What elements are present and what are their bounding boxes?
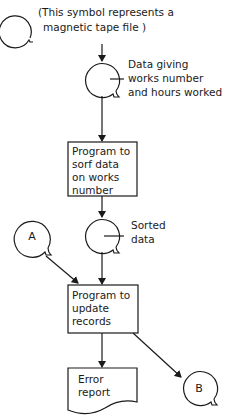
sorted-tape-label-2: data <box>131 233 155 245</box>
input-tape-label-2: works number <box>128 72 204 84</box>
input-tape-label-1: Data giving <box>128 58 188 70</box>
sorted-tape-label-1: Sorted <box>131 219 166 231</box>
tape-icon <box>0 16 33 48</box>
update-program-label-1: Program to <box>72 289 130 301</box>
connector-b-label: B <box>195 382 203 395</box>
sort-program-label-3: on works <box>72 171 119 183</box>
arrow-to-b <box>133 333 181 377</box>
input-tape-symbol <box>86 64 120 98</box>
error-report-label-2: report <box>78 386 110 398</box>
sort-program-label-2: sorf data <box>72 158 119 170</box>
sort-program-label-4: number <box>72 184 114 196</box>
connector-a-label: A <box>28 230 36 243</box>
connector-a: A <box>14 221 51 257</box>
connector-b: B <box>184 372 218 406</box>
update-program-label-2: update <box>72 302 109 314</box>
input-tape-label-3: and hours worked <box>128 86 222 98</box>
legend-line-1: (This symbol represents a <box>38 6 174 18</box>
tape-icon <box>86 64 120 98</box>
legend-line-2: magnetic tape file ) <box>43 21 146 33</box>
sort-program-label-1: Program to <box>72 145 130 157</box>
update-program-label-3: records <box>72 315 111 327</box>
legend-tape-symbol <box>0 16 33 48</box>
error-report-label-1: Error <box>78 373 104 385</box>
arrow-a-to-update <box>46 256 78 283</box>
flowchart: (This symbol represents a magnetic tape … <box>0 0 231 419</box>
